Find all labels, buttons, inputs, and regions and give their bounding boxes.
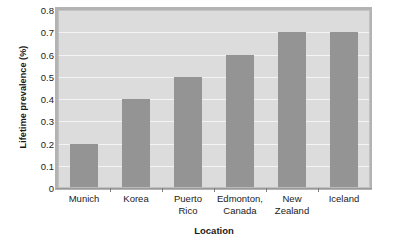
gridline xyxy=(58,144,370,145)
y-axis-tick-label: 0.8 xyxy=(30,5,54,16)
x-axis-title: Location xyxy=(58,225,370,236)
bar-chart-figure: Lifetime prevalence (%) 00.10.20.30.40.5… xyxy=(0,0,394,245)
x-axis-tick-label: Korea xyxy=(106,193,166,205)
x-axis-tick-label: Munich xyxy=(54,193,114,205)
x-axis-tick-label-line: Puerto xyxy=(158,193,218,205)
y-axis-tick-label: 0.4 xyxy=(30,94,54,105)
x-axis-tick-label-line: Munich xyxy=(54,193,114,205)
x-axis-tick-label-line: Zealand xyxy=(262,205,322,217)
x-axis-tick-labels: MunichKoreaPuertoRicoEdmonton,CanadaNewZ… xyxy=(58,193,370,223)
x-axis-tick-label-line: Korea xyxy=(106,193,166,205)
x-axis-tick-label-line: Rico xyxy=(158,205,218,217)
x-axis-tick-mark xyxy=(318,188,319,192)
x-axis-tick-label-line: New xyxy=(262,193,322,205)
y-axis-tick-label: 0.3 xyxy=(30,116,54,127)
y-axis-tick-labels: 00.10.20.30.40.50.60.70.8 xyxy=(30,0,54,245)
bar xyxy=(122,99,150,188)
gridline xyxy=(58,166,370,167)
y-axis-tick-label: 0 xyxy=(30,183,54,194)
x-axis-tick-label-line: Iceland xyxy=(314,193,374,205)
gridline xyxy=(58,55,370,56)
bar xyxy=(174,77,202,188)
y-axis-tick-label: 0.5 xyxy=(30,71,54,82)
x-axis-tick-label: PuertoRico xyxy=(158,193,218,216)
plot-area xyxy=(58,10,370,188)
x-axis-tick-mark xyxy=(214,188,215,192)
bar xyxy=(330,32,358,188)
x-axis-tick-mark xyxy=(110,188,111,192)
bar xyxy=(278,32,306,188)
x-axis-tick-label-line: Canada xyxy=(210,205,270,217)
bar xyxy=(70,144,98,189)
gridline xyxy=(58,32,370,33)
x-axis-tick-mark xyxy=(266,188,267,192)
gridline xyxy=(58,10,370,11)
y-axis-title: Lifetime prevalence (%) xyxy=(18,12,28,182)
bar xyxy=(226,55,254,189)
gridline xyxy=(58,99,370,100)
y-axis-tick-label: 0.2 xyxy=(30,138,54,149)
x-axis-tick-mark xyxy=(162,188,163,192)
y-axis-tick-label: 0.1 xyxy=(30,160,54,171)
y-axis-tick-label: 0.7 xyxy=(30,27,54,38)
y-axis-tick-label: 0.6 xyxy=(30,49,54,60)
gridline xyxy=(58,121,370,122)
x-axis-tick-label: Iceland xyxy=(314,193,374,205)
x-axis-tick-label-line: Edmonton, xyxy=(210,193,270,205)
x-axis-tick-label: Edmonton,Canada xyxy=(210,193,270,216)
x-axis-tick-label: NewZealand xyxy=(262,193,322,216)
gridline xyxy=(58,77,370,78)
